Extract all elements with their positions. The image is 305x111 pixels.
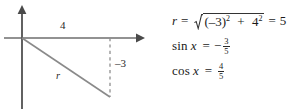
coordinate-diagram: 4 –3 r [0, 0, 160, 111]
equation-lhs-r: r [172, 13, 177, 29]
sine-numerator: 3 [223, 37, 229, 46]
cosine-function-name: cos [172, 63, 190, 79]
y-axis-arrow-icon [18, 5, 27, 14]
equals-sign-4: = [205, 63, 212, 79]
adjacent-length-label: 4 [60, 20, 66, 31]
math-worked-example: 4 –3 r r = (–3)2 + 42 = 5 [0, 0, 305, 111]
cosine-argument: x [193, 63, 199, 79]
equals-sign-2: = [268, 13, 275, 29]
exponent-a: 2 [226, 13, 230, 22]
radical-sign-icon [194, 13, 203, 29]
cosine-numerator: 4 [218, 62, 224, 71]
equation-list: r = (–3)2 + 42 = 5 sin x = [172, 8, 305, 108]
hypotenuse-ray [22, 38, 110, 97]
sine-denominator: 5 [223, 46, 229, 56]
sine-argument: x [191, 38, 197, 54]
equation-sine: sin x = − 3 5 [172, 33, 305, 58]
sine-function-name: sin [172, 38, 188, 54]
plus-sign: + [237, 14, 244, 29]
equals-sign-3: = [203, 38, 210, 54]
exponent-b: 2 [258, 13, 262, 22]
cosine-denominator: 5 [218, 71, 224, 81]
hypotenuse-label: r [56, 71, 60, 82]
x-axis-arrow-icon [136, 34, 145, 43]
diagram-svg [0, 0, 160, 111]
sine-negative-sign: − [214, 38, 221, 54]
equals-sign-1: = [181, 13, 188, 29]
equation-radius: r = (–3)2 + 42 = 5 [172, 8, 305, 33]
opposite-length-label: –3 [115, 58, 126, 69]
square-root-expression: (–3)2 + 42 [194, 13, 264, 29]
radius-result: 5 [280, 13, 287, 29]
radicand: (–3)2 + 42 [203, 13, 264, 29]
radicand-term-a: (–3) [204, 14, 226, 29]
cosine-fraction: 4 5 [218, 62, 224, 81]
equation-cosine: cos x = 4 5 [172, 58, 305, 83]
sine-fraction: 3 5 [223, 37, 229, 56]
